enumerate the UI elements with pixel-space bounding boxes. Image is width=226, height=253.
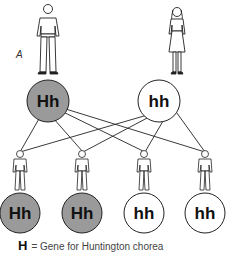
mother-genotype-label: hh	[149, 92, 170, 111]
child-genotype: hh	[185, 193, 225, 233]
father-genotype: Hh	[27, 80, 69, 122]
panel-label: A	[15, 49, 23, 60]
father-figure-icon	[37, 5, 59, 75]
legend-text: = Gene for Huntington chorea	[31, 241, 163, 252]
child-genotype-label: hh	[195, 204, 216, 223]
mother-figure-icon	[169, 8, 185, 75]
child-figure-icon	[13, 151, 27, 191]
child-genotype: hh	[124, 193, 164, 233]
child-figure-icon	[75, 151, 89, 191]
child-genotype-label: hh	[134, 204, 155, 223]
children-figures	[13, 151, 212, 191]
child-genotype: Hh	[0, 193, 40, 233]
mother-genotype: hh	[138, 80, 180, 122]
legend: H= Gene for Huntington chorea	[18, 238, 163, 253]
child-figure-icon	[198, 151, 212, 191]
child-genotype-label: Hh	[9, 204, 32, 223]
child-genotype-label: Hh	[71, 204, 94, 223]
father-genotype-label: Hh	[37, 92, 60, 111]
child-genotype: Hh	[62, 193, 102, 233]
legend-symbol: H	[18, 238, 27, 253]
child-figure-icon	[137, 151, 151, 191]
